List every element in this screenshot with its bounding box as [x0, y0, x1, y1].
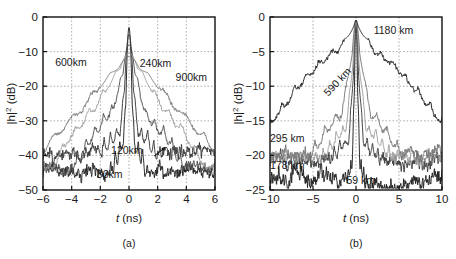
x-tick-label: 5: [396, 193, 402, 205]
x-tick-label: 10: [436, 193, 449, 205]
y-tick-label: 0: [32, 11, 38, 23]
curve-annotation-30km: 30km: [97, 168, 123, 180]
curve-annotation-240km: 240km: [140, 57, 172, 69]
y-axis-title: |h|2 (dB): [4, 82, 18, 124]
x-tick-label: 2: [154, 193, 160, 205]
panel-a-plot: −6−4−20246−50−40−30−20−100600km240km900k…: [0, 0, 228, 259]
panel-caption: (a): [123, 237, 136, 249]
y-tick-label: −10: [245, 80, 265, 92]
x-tick-label: 4: [183, 193, 190, 205]
panel-b-plot: −10−50510−25−20−15−10−501180 km590 km295…: [228, 0, 456, 259]
curve-annotation-900km: 900km: [176, 71, 208, 83]
panel-a: −6−4−20246−50−40−30−20−100600km240km900k…: [0, 0, 228, 259]
figure-container: −6−4−20246−50−40−30−20−100600km240km900k…: [0, 0, 456, 259]
panel-b: −10−50510−25−20−15−10−501180 km590 km295…: [228, 0, 456, 259]
curve-annotation-178-km: 178 km: [270, 159, 305, 171]
x-tick-label: 0: [353, 193, 359, 205]
curve-annotation-59-km: 59 km: [346, 174, 375, 186]
y-tick-label: −20: [245, 149, 265, 161]
y-tick-label: −15: [245, 115, 265, 127]
x-axis-title: t (ns): [343, 212, 369, 224]
x-tick-label: −6: [36, 193, 49, 205]
panel-caption: (b): [350, 237, 363, 249]
x-tick-label: 0: [126, 193, 132, 205]
x-tick-label: −2: [94, 193, 107, 205]
curve-annotation-295-km: 295 km: [270, 132, 305, 144]
curve-annotation-600km: 600km: [55, 56, 87, 68]
y-tick-label: −5: [252, 46, 265, 58]
x-tick-label: −5: [306, 193, 319, 205]
curve-annotation-1180-km: 1180 km: [374, 24, 414, 36]
x-axis-title: t (ns): [116, 212, 142, 224]
x-tick-label: 6: [212, 193, 218, 205]
curve-annotation-590-km: 590 km: [321, 65, 353, 99]
curve-annotation-120km: 120km: [111, 144, 143, 156]
y-tick-label: −40: [18, 149, 38, 161]
y-tick-label: −10: [18, 46, 38, 58]
x-tick-label: −4: [65, 193, 79, 205]
y-tick-label: −30: [18, 115, 38, 127]
y-tick-label: 0: [259, 11, 265, 23]
y-tick-label: −50: [18, 184, 38, 196]
y-tick-label: −20: [18, 80, 38, 92]
y-tick-label: −25: [245, 184, 265, 196]
y-axis-title: |h|2 (dB): [231, 82, 245, 124]
